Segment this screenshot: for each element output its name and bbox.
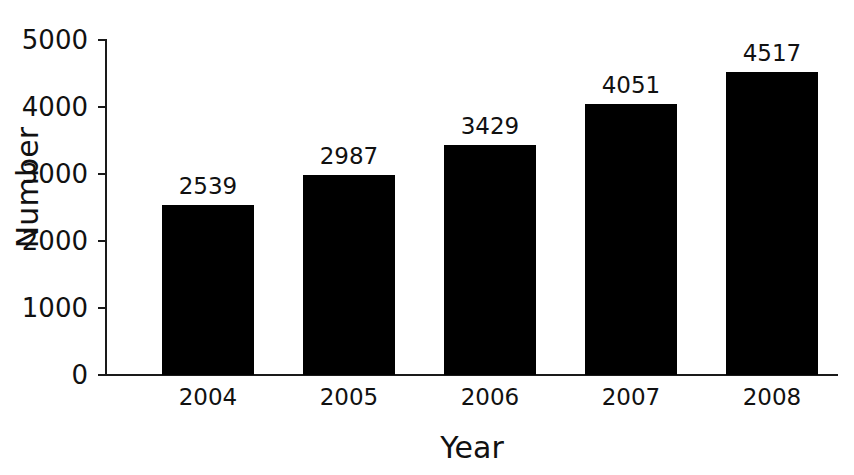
bar[interactable] xyxy=(444,145,536,375)
bar[interactable] xyxy=(162,205,254,375)
y-tick-mark xyxy=(98,39,107,41)
bar-chart: Number 010002000300040005000 25392004298… xyxy=(0,0,854,475)
y-tick-mark xyxy=(98,374,107,376)
bar-value-label: 4517 xyxy=(712,42,832,65)
bar-value-label: 2987 xyxy=(289,145,409,168)
x-axis-title: Year xyxy=(106,430,838,465)
x-tick-label: 2008 xyxy=(712,386,832,409)
x-tick-label: 2006 xyxy=(430,386,550,409)
x-tick-label: 2005 xyxy=(289,386,409,409)
plot-area: 2539200429872005342920064051200745172008 xyxy=(0,0,854,475)
y-tick-mark xyxy=(98,173,107,175)
bar-value-label: 3429 xyxy=(430,115,550,138)
x-tick-label: 2007 xyxy=(571,386,691,409)
bar-value-label: 4051 xyxy=(571,74,691,97)
y-tick-mark xyxy=(98,106,107,108)
bar-value-label: 2539 xyxy=(148,175,268,198)
y-tick-mark xyxy=(98,307,107,309)
x-tick-label: 2004 xyxy=(148,386,268,409)
bar[interactable] xyxy=(303,175,395,375)
bar[interactable] xyxy=(585,104,677,375)
y-tick-mark xyxy=(98,240,107,242)
bar[interactable] xyxy=(726,72,818,375)
